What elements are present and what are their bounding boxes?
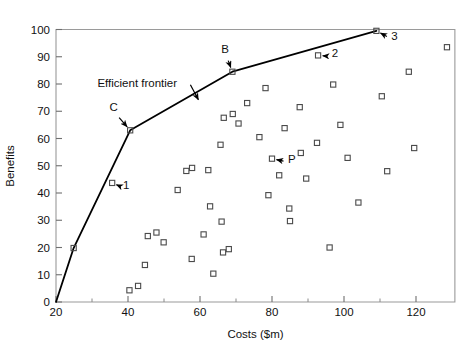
- x-tick-label-3: 80: [266, 306, 279, 318]
- x-tick-label-5: 120: [406, 306, 425, 318]
- x-tick-label-0: 20: [50, 306, 63, 318]
- y-tick-label-10: 100: [31, 24, 50, 36]
- y-axis-title: Benefits: [4, 145, 16, 187]
- y-tick-label-5: 50: [37, 160, 50, 172]
- y-tick-label-0: 0: [44, 296, 50, 308]
- y-tick-label-8: 80: [37, 78, 50, 90]
- y-tick-label-4: 40: [37, 187, 50, 199]
- annotation-leader-line: [116, 185, 118, 186]
- annotation-label-B: B: [221, 43, 229, 55]
- y-tick-label-6: 60: [37, 133, 50, 145]
- annotation-label-2: 2: [332, 47, 338, 59]
- scatter-chart: 20406080100120 0102030405060708090100 Ef…: [0, 0, 469, 351]
- y-tick-label-7: 70: [37, 105, 50, 117]
- x-tick-label-1: 40: [122, 306, 135, 318]
- annotation-label-3: 3: [391, 30, 397, 42]
- x-axis-title: Costs ($m): [227, 328, 283, 340]
- annotation-label-1: 1: [123, 179, 129, 191]
- y-tick-label-3: 30: [37, 214, 50, 226]
- annotation-label-P: P: [288, 153, 296, 165]
- y-tick-label-9: 90: [37, 51, 50, 63]
- annotation-label-C: C: [109, 101, 117, 113]
- annotation-efficient-frontier: Efficient frontier: [97, 77, 177, 89]
- chart-background: [0, 0, 469, 351]
- x-tick-label-4: 100: [334, 306, 353, 318]
- y-tick-label-2: 20: [37, 242, 50, 254]
- x-tick-label-2: 60: [194, 306, 207, 318]
- y-tick-label-1: 10: [37, 269, 50, 281]
- chart-canvas: 20406080100120 0102030405060708090100 Ef…: [0, 0, 469, 351]
